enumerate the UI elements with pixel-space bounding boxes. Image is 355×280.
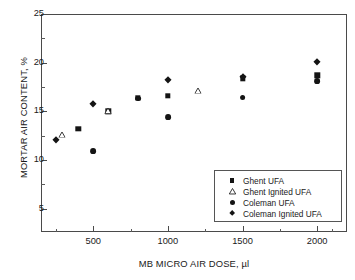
x-tick-major — [317, 226, 318, 232]
chart-page: MORTAR AIR CONTENT, % MB MICRO AIR DOSE,… — [0, 0, 355, 280]
legend-marker-triangle — [224, 188, 240, 194]
legend-marker-circle — [224, 200, 240, 205]
chart-legend: Ghent UFA Ghent Ignited UFA Coleman UFA … — [214, 170, 342, 222]
x-axis-title: MB MICRO AIR DOSE, µl — [41, 258, 347, 269]
data-point-circle — [90, 148, 96, 154]
y-axis-title: MORTAR AIR CONTENT, % — [18, 23, 29, 213]
y-tick-minor — [41, 136, 45, 137]
y-tick-label: 20 — [4, 57, 44, 67]
data-point-circle — [135, 96, 141, 102]
x-tick-label: 2000 — [287, 236, 347, 246]
data-point-square — [165, 93, 170, 98]
x-tick-minor — [56, 229, 57, 233]
data-point-triangle — [194, 87, 201, 93]
legend-marker-diamond — [224, 211, 240, 215]
y-tick-label: 10 — [4, 154, 44, 164]
y-tick-label: 25 — [4, 8, 44, 18]
legend-label: Coleman Ignited UFA — [240, 209, 322, 219]
legend-label: Coleman UFA — [240, 198, 295, 208]
legend-label: Ghent UFA — [240, 176, 284, 186]
x-tick-minor — [131, 229, 132, 233]
x-tick-major — [93, 226, 94, 232]
y-tick-minor — [41, 87, 45, 88]
data-point-circle — [165, 114, 171, 120]
legend-item: Ghent Ignited UFA — [215, 186, 341, 197]
legend-item: Coleman Ignited UFA — [215, 208, 341, 219]
legend-marker-square — [224, 178, 240, 183]
x-tick-minor — [205, 229, 206, 233]
x-tick-major — [243, 226, 244, 232]
data-point-circle — [314, 78, 320, 84]
data-point-circle — [240, 95, 246, 101]
legend-label: Ghent Ignited UFA — [240, 187, 311, 197]
x-tick-minor — [332, 229, 333, 233]
x-tick-minor — [280, 229, 281, 233]
x-tick-label: 1000 — [138, 236, 198, 246]
y-tick-label: 15 — [4, 105, 44, 115]
y-tick-minor — [41, 38, 45, 39]
x-tick-major — [168, 226, 169, 232]
x-tick-label: 1500 — [213, 236, 273, 246]
y-tick-minor — [41, 184, 45, 185]
data-point-triangle — [105, 108, 112, 114]
legend-item: Ghent UFA — [215, 175, 341, 186]
data-point-square — [314, 73, 319, 78]
y-tick-label: 5 — [4, 203, 44, 213]
data-point-square — [76, 126, 81, 131]
data-point-triangle — [58, 131, 65, 137]
legend-item: Coleman UFA — [215, 197, 341, 208]
x-tick-label: 500 — [63, 236, 123, 246]
